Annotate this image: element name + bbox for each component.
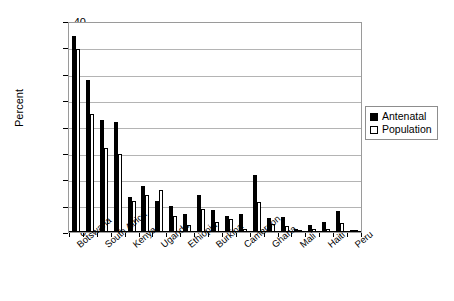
legend-swatch-open-square-icon — [370, 126, 378, 134]
bar-group — [125, 23, 139, 232]
bar-group — [111, 23, 125, 232]
bar-group — [139, 23, 153, 232]
bar-population — [354, 230, 358, 232]
legend-label-population: Population — [382, 124, 432, 135]
bar-population — [118, 154, 122, 232]
bar-groups — [69, 23, 361, 232]
bar-group — [347, 23, 361, 232]
legend-item-antenatal: Antenatal — [370, 110, 432, 123]
bar-group — [278, 23, 292, 232]
bar-population — [76, 49, 80, 232]
bar-group — [166, 23, 180, 232]
y-tick-mark-0 — [63, 233, 68, 234]
legend-swatch-filled-square-icon — [370, 113, 378, 121]
bar-group — [264, 23, 278, 232]
bar-population — [326, 229, 330, 232]
x-axis-labels: BotswanaSouth AfricaKenyaUgandaEthiopiaB… — [0, 236, 454, 300]
bar-group — [69, 23, 83, 232]
bar-population — [159, 190, 163, 232]
bar-group — [305, 23, 319, 232]
bar-group — [83, 23, 97, 232]
y-axis-title: Percent — [13, 73, 25, 143]
legend-item-population: Population — [370, 123, 432, 136]
bar-group — [194, 23, 208, 232]
bar-group — [236, 23, 250, 232]
bar-group — [152, 23, 166, 232]
bar-group — [333, 23, 347, 232]
bar-group — [180, 23, 194, 232]
bar-group — [97, 23, 111, 232]
bar-group — [250, 23, 264, 232]
bar-population — [312, 229, 316, 232]
legend-label-antenatal: Antenatal — [382, 111, 426, 122]
chart-legend: Antenatal Population — [365, 106, 438, 140]
bar-chart: Percent 40 35 30 25 20 15 10 5 0 Botswan… — [0, 0, 454, 301]
bar-group — [319, 23, 333, 232]
bar-population — [298, 230, 302, 232]
bar-group — [222, 23, 236, 232]
bar-group — [208, 23, 222, 232]
bar-population — [90, 114, 94, 232]
bar-group — [292, 23, 306, 232]
